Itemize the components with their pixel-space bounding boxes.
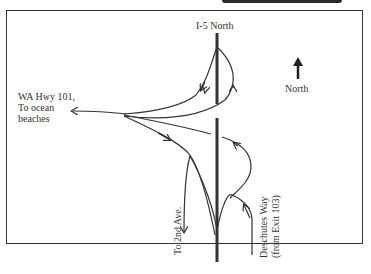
hwy101-label: WA Hwy 101, To ocean beaches [18, 91, 75, 124]
hwy101-westbound [72, 111, 126, 114]
i5-north-label: I-5 North [196, 20, 234, 31]
deschutes-way-road [217, 195, 252, 255]
deschutes-way-label: Deschutes Way [258, 197, 269, 259]
hwy101-label-line1: WA Hwy 101, [18, 91, 75, 102]
hwy101-label-line3: beaches [18, 113, 75, 124]
deschutes-exit-label: (from Exit 103) [270, 195, 281, 258]
ramp-hwy101-to-2nd-ave [124, 116, 215, 235]
interchange-drawing [0, 0, 371, 274]
ramp-i5-to-hwy101 [124, 47, 217, 114]
ramp-deschutes-loop [222, 137, 251, 198]
ramp-to-2nd-ave [184, 156, 190, 232]
hwy101-label-line2: To ocean [18, 102, 75, 113]
north-arrow-icon [293, 57, 303, 79]
north-label: North [285, 83, 308, 94]
to-2nd-ave-label: To 2nd Ave. [172, 207, 183, 255]
